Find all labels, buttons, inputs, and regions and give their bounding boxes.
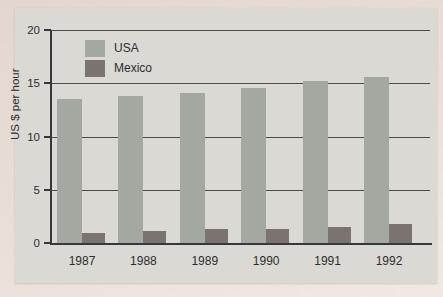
x-tick-label-1992: 1992 xyxy=(364,254,414,268)
gridline-20 xyxy=(50,30,430,31)
legend-label: USA xyxy=(114,41,139,55)
x-axis-line xyxy=(50,243,432,245)
y-axis-line xyxy=(50,30,52,245)
x-tick-label-1989: 1989 xyxy=(180,254,230,268)
bar-usa-1991 xyxy=(303,81,328,243)
bar-mexico-1990 xyxy=(266,229,289,243)
legend: USAMexico xyxy=(85,38,152,78)
x-tick-label-1987: 1987 xyxy=(57,254,107,268)
legend-item-mexico: Mexico xyxy=(85,58,152,78)
x-tick-label-1990: 1990 xyxy=(241,254,291,268)
x-tick-label-1991: 1991 xyxy=(303,254,353,268)
y-tick-label: 5 xyxy=(16,184,40,196)
x-tick-label-1988: 1988 xyxy=(118,254,168,268)
legend-swatch-mexico xyxy=(85,60,105,77)
bar-usa-1989 xyxy=(180,93,205,243)
bar-mexico-1988 xyxy=(143,231,166,243)
bar-usa-1992 xyxy=(364,77,389,243)
bar-usa-1990 xyxy=(241,88,266,243)
bar-mexico-1989 xyxy=(205,229,228,243)
y-tick-label: 0 xyxy=(16,237,40,249)
plot-area: US $ per hour USAMexico 0510152019871988… xyxy=(0,0,443,297)
bar-mexico-1991 xyxy=(328,227,351,243)
y-tick-label: 15 xyxy=(16,77,40,89)
bar-mexico-1992 xyxy=(389,224,412,243)
bar-mexico-1987 xyxy=(82,233,105,243)
legend-swatch-usa xyxy=(85,40,105,57)
legend-label: Mexico xyxy=(114,61,152,75)
y-tick-label: 10 xyxy=(16,131,40,143)
bar-usa-1988 xyxy=(118,96,143,243)
bar-usa-1987 xyxy=(57,99,82,243)
scanned-page: US $ per hour USAMexico 0510152019871988… xyxy=(0,0,443,297)
legend-item-usa: USA xyxy=(85,38,152,58)
y-tick-label: 20 xyxy=(16,24,40,36)
